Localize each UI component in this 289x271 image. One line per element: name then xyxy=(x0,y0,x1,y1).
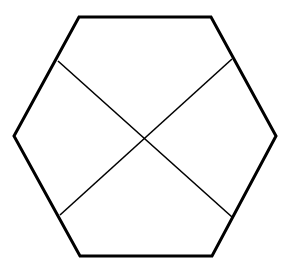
hexagon-diagram xyxy=(0,0,289,271)
diagram-canvas xyxy=(0,0,289,271)
hexagon-outline xyxy=(14,17,276,256)
diagonal-line-2 xyxy=(60,59,232,215)
